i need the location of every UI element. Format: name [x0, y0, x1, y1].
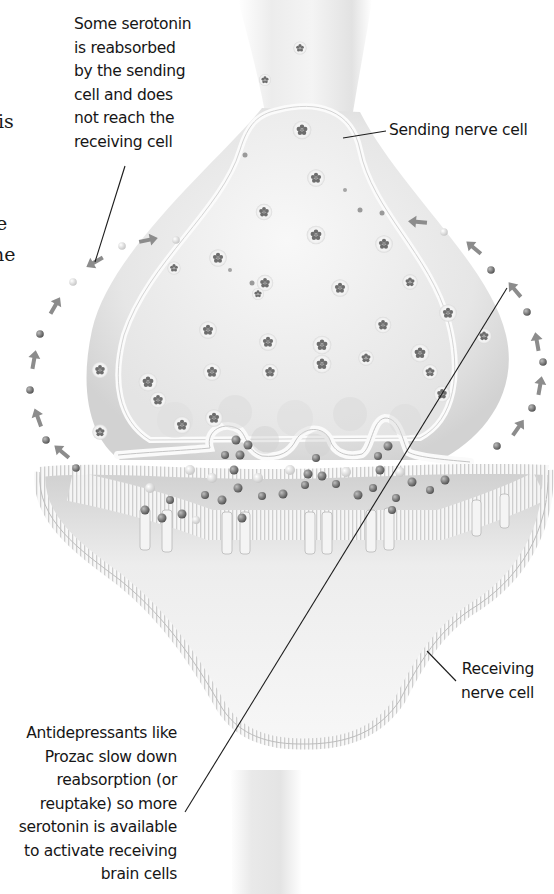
label-line: Prozac slow down [19, 746, 177, 770]
label-line: reabsorption (or [19, 769, 177, 793]
clipped-text-fragment: e [0, 212, 7, 234]
sending-cell-label: Sending nerve cell [389, 119, 528, 143]
label-line: by the sending [74, 60, 191, 84]
antidepressant-note-label: Antidepressants like Prozac slow down re… [19, 722, 177, 887]
label-line: not reach the [74, 107, 191, 131]
sending-nerve-cell [87, 106, 509, 462]
label-line: Receiving [461, 658, 534, 682]
label-line: to activate receiving [19, 840, 177, 864]
label-line: receiving cell [74, 131, 191, 155]
label-line: serotonin is available [19, 816, 177, 840]
synapse-diagram: is e ne Some serotonin is reabsorbed by … [0, 0, 554, 894]
clipped-text-fragment: is [0, 110, 14, 132]
receiving-cell-label: Receiving nerve cell [461, 658, 534, 705]
clipped-text-fragment: ne [0, 243, 15, 265]
label-line: cell and does [74, 84, 191, 108]
reuptake-note-label: Some serotonin is reabsorbed by the send… [74, 13, 191, 154]
label-line: Antidepressants like [19, 722, 177, 746]
label-line: nerve cell [461, 682, 534, 706]
label-line: Some serotonin [74, 13, 191, 37]
leader-receiving-cell [427, 651, 456, 681]
label-line: reuptake) so more [19, 793, 177, 817]
label-line: is reabsorbed [74, 37, 191, 61]
label-line: brain cells [19, 863, 177, 887]
label-line: Sending nerve cell [389, 119, 528, 143]
